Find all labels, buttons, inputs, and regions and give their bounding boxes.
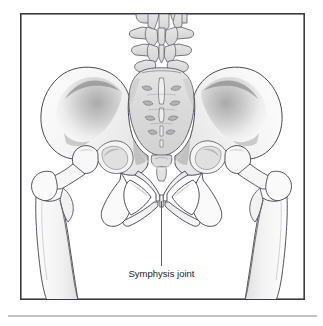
figure-root: Symphysis joint <box>0 0 323 326</box>
symphysis-joint-label: Symphysis joint <box>129 268 195 279</box>
pelvis-illustration-svg: Symphysis joint <box>0 0 323 326</box>
